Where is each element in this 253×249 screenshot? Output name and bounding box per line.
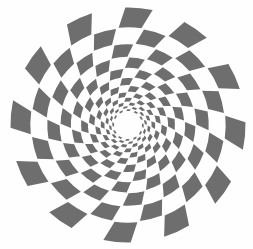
- figure-container: Logarithmic spiral checkerboard: [0, 0, 253, 249]
- spiral-checkerboard-figure: [0, 0, 253, 249]
